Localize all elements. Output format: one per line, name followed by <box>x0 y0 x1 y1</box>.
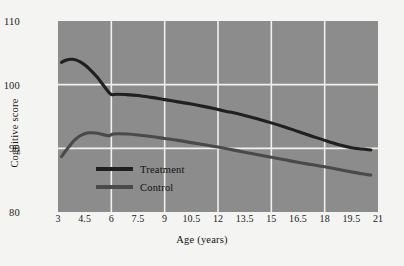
x-tick-label: 6 <box>109 213 114 224</box>
legend-item-treatment: Treatment <box>96 163 185 175</box>
legend-label-control: Control <box>140 182 174 193</box>
y-tick-label: 90 <box>0 143 20 154</box>
x-tick-label: 13.5 <box>236 213 254 224</box>
legend-label-treatment: Treatment <box>140 164 185 175</box>
legend-item-control: Control <box>96 181 185 193</box>
y-tick-label: 80 <box>0 207 20 218</box>
x-tick-label: 19.5 <box>342 213 360 224</box>
legend-swatch-treatment <box>96 167 133 171</box>
x-tick-label: 4.5 <box>78 213 91 224</box>
x-tick-label: 12 <box>213 213 223 224</box>
x-tick-label: 16.5 <box>289 213 307 224</box>
x-tick-label: 21 <box>373 213 383 224</box>
y-tick-label: 110 <box>0 16 20 27</box>
x-tick-label: 15 <box>266 213 276 224</box>
x-tick-label: 18 <box>320 213 330 224</box>
chart-figure: Cognitive score 1101009080 Treatment Con… <box>0 0 404 266</box>
y-axis-title: Cognitive score <box>9 98 20 167</box>
x-axis-title: Age (years) <box>0 234 404 245</box>
x-tick-label: 3 <box>55 213 60 224</box>
y-tick-label: 100 <box>0 79 20 90</box>
x-tick-label: 7.5 <box>132 213 145 224</box>
x-tick-label: 9 <box>162 213 167 224</box>
x-tick-label: 10.5 <box>182 213 200 224</box>
legend-swatch-control <box>96 185 133 189</box>
chart-legend: Treatment Control <box>96 163 185 193</box>
